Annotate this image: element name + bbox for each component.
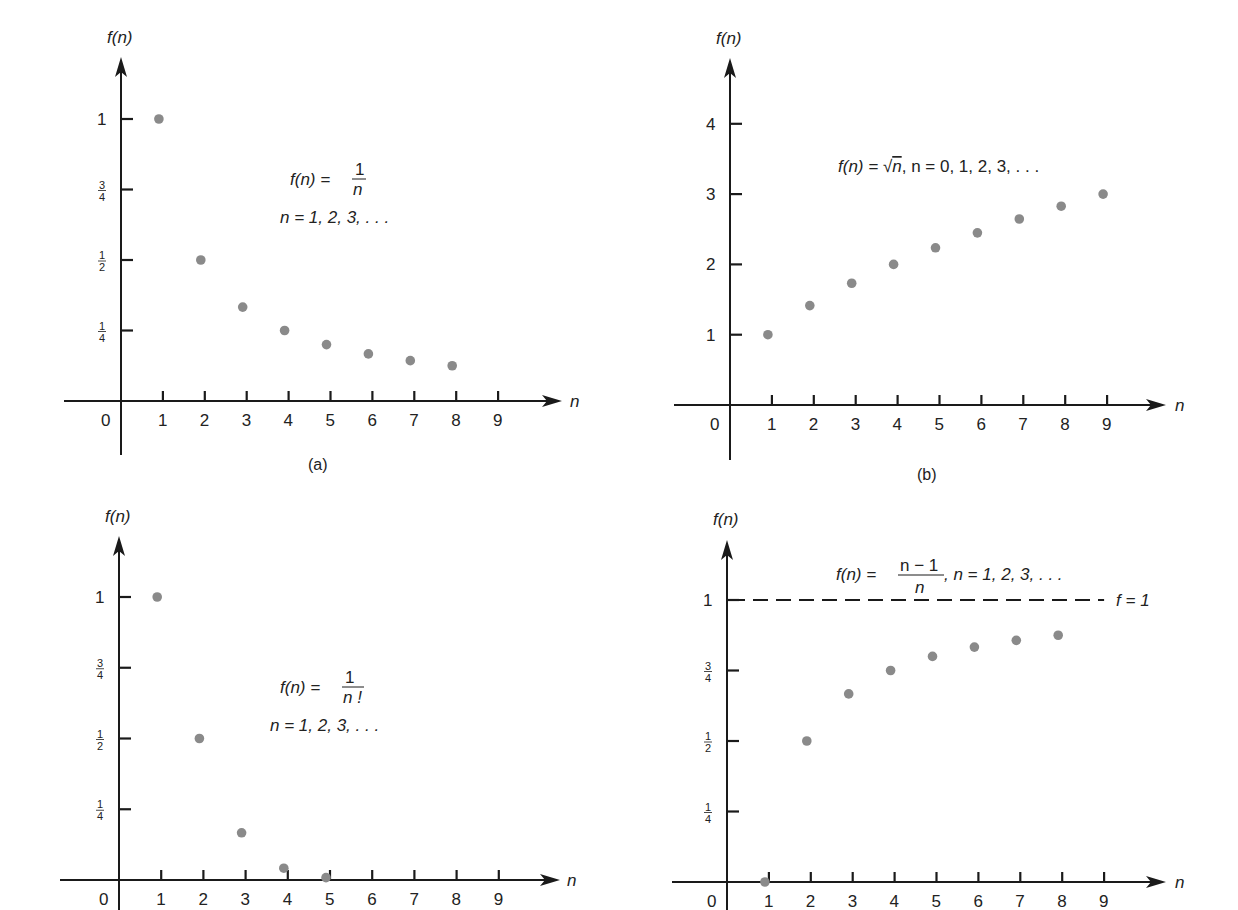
x-tick-label: 4: [890, 892, 899, 910]
y-tick-denominator: 4: [705, 813, 711, 825]
y-tick-denominator: 4: [705, 672, 711, 684]
data-point: [238, 302, 248, 312]
y-tick-numerator: 1: [99, 320, 105, 332]
x-tick-label: 1: [156, 890, 165, 909]
data-point: [886, 666, 896, 676]
x-tick-label: 5: [325, 890, 334, 909]
x-tick-label: 2: [198, 890, 207, 909]
y-tick-denominator: 2: [705, 742, 711, 754]
x-tick-label: 2: [806, 892, 815, 910]
data-point: [1056, 201, 1066, 211]
formula-numerator: 1: [345, 668, 354, 687]
x-tick-label: 5: [326, 411, 335, 430]
data-point: [889, 260, 899, 270]
y-axis-label: f(n): [716, 29, 742, 48]
x-axis-label: n: [1175, 396, 1184, 415]
data-point: [447, 361, 457, 371]
y-tick-label: 1: [95, 588, 104, 607]
data-point: [970, 642, 980, 652]
y-axis-label: f(n): [713, 510, 739, 529]
panel-a-reciprocal: nf(n)01234567891412341f(n) =1nn = 1, 2, …: [64, 28, 579, 473]
y-tick-label: 1: [706, 326, 715, 345]
panel-c-reciprocal-factorial: nf(n)01234567891412341f(n) =1n !n = 1, 2…: [60, 507, 576, 910]
x-tick-label: 6: [976, 415, 985, 434]
y-tick-denominator: 4: [97, 810, 103, 822]
y-tick-numerator: 3: [705, 660, 711, 672]
data-point: [195, 734, 205, 744]
x-tick-label: 7: [409, 890, 418, 909]
data-point: [763, 330, 773, 340]
data-point: [322, 340, 332, 350]
x-tick-label: 6: [973, 892, 982, 910]
data-point: [802, 736, 812, 746]
x-tick-label: 9: [494, 890, 503, 909]
data-point: [1012, 636, 1022, 646]
data-point: [1098, 189, 1108, 199]
y-tick-label: 1: [703, 591, 712, 610]
data-point: [805, 301, 815, 311]
x-tick-label: 1: [767, 415, 776, 434]
data-point: [196, 255, 206, 265]
data-point: [973, 228, 983, 238]
x-tick-label: 3: [242, 411, 251, 430]
panel-caption: (b): [917, 466, 937, 483]
data-point: [406, 356, 416, 366]
y-axis-label: f(n): [105, 507, 131, 526]
x-tick-label: 4: [893, 415, 902, 434]
y-tick-numerator: 1: [99, 249, 105, 261]
y-tick-numerator: 1: [705, 801, 711, 813]
data-point: [844, 689, 854, 699]
x-tick-label: 3: [848, 892, 857, 910]
formula: f(n) = √n, n = 0, 1, 2, 3, . . .: [838, 157, 1039, 176]
y-tick-denominator: 2: [97, 740, 103, 752]
x-tick-label: 0: [710, 415, 719, 434]
x-tick-label: 1: [764, 892, 773, 910]
y-tick-label: 2: [706, 255, 715, 274]
data-point: [279, 863, 289, 873]
x-tick-label: 2: [809, 415, 818, 434]
x-tick-label: 1: [158, 411, 167, 430]
data-point: [280, 326, 290, 336]
data-point: [1053, 630, 1063, 640]
x-tick-label: 9: [493, 411, 502, 430]
x-tick-label: 0: [99, 890, 108, 909]
formula-lhs: f(n) =: [290, 170, 330, 189]
data-point: [931, 243, 941, 253]
x-axis-label: n: [567, 871, 576, 890]
data-point: [237, 828, 247, 838]
formula-domain: n = 1, 2, 3, . . .: [270, 716, 379, 735]
y-axis-label: f(n): [107, 28, 133, 47]
y-tick-numerator: 3: [99, 179, 105, 191]
data-point: [364, 349, 374, 359]
x-tick-label: 6: [367, 890, 376, 909]
x-tick-label: 8: [1057, 892, 1066, 910]
y-tick-numerator: 1: [97, 798, 103, 810]
panel-b-square-root: nf(n)01234567891234f(n) = √n, n = 0, 1, …: [674, 29, 1184, 483]
formula-denominator: n: [915, 578, 924, 597]
x-tick-label: 5: [935, 415, 944, 434]
formula-lhs: f(n) =: [280, 678, 320, 697]
x-tick-label: 4: [284, 411, 293, 430]
x-tick-label: 4: [283, 890, 292, 909]
figure: nf(n)01234567891412341f(n) =1nn = 1, 2, …: [0, 0, 1238, 910]
formula-numerator: n − 1: [900, 556, 938, 575]
y-tick-denominator: 4: [99, 191, 105, 203]
x-tick-label: 0: [101, 411, 110, 430]
panel-caption: (a): [308, 456, 328, 473]
formula-lhs: f(n) =: [836, 565, 876, 584]
y-tick-numerator: 3: [97, 657, 103, 669]
y-tick-denominator: 4: [97, 669, 103, 681]
x-tick-label: 3: [241, 890, 250, 909]
x-tick-label: 9: [1099, 892, 1108, 910]
data-point: [847, 278, 857, 288]
x-tick-label: 8: [451, 411, 460, 430]
x-tick-label: 2: [200, 411, 209, 430]
formula-domain: , n = 1, 2, 3, . . .: [944, 565, 1063, 584]
y-tick-label: 1: [97, 110, 106, 129]
formula-numerator: 1: [355, 160, 364, 179]
data-point: [152, 592, 162, 602]
x-axis-label: n: [1175, 873, 1184, 892]
x-tick-label: 6: [367, 411, 376, 430]
data-point: [1015, 214, 1025, 224]
data-point: [321, 873, 331, 883]
